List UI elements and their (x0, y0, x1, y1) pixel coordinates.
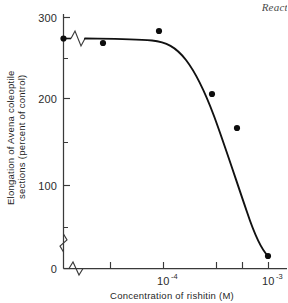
y-axis-title-line2: sections (percent of control) (16, 75, 27, 199)
data-series-group (60, 28, 271, 259)
fitted-dose-response-curve (85, 39, 268, 257)
data-point-control (60, 35, 66, 41)
curve-break-mark (71, 31, 85, 46)
x-tick-label-1e-3-exponent: -3 (276, 272, 283, 281)
x-axis-group: 10 -4 10 -3 Concentration of rishitin (M… (64, 262, 288, 301)
data-point-4 (209, 91, 215, 97)
x-tick-label-1e-4-group: 10 -4 (157, 272, 178, 287)
y-tick-label-300: 300 (38, 12, 57, 24)
x-tick-label-1e-4-mantissa: 10 (157, 275, 169, 287)
data-point-5 (234, 125, 240, 131)
data-point-3 (156, 28, 162, 34)
figure-panel: Reacti 300 200 100 0 Elongation of Avena… (0, 0, 287, 303)
y-axis-title-group: Elongation of Avena coleoptile sections … (5, 70, 27, 205)
data-point-2 (100, 40, 106, 46)
x-tick-label-1e-3-mantissa: 10 (262, 275, 274, 287)
y-axis-title-line1: Elongation of Avena coleoptile (5, 70, 16, 205)
y-tick-label-100: 100 (38, 180, 57, 192)
x-tick-label-1e-4-exponent: -4 (171, 272, 178, 281)
data-point-6 (265, 253, 271, 259)
x-tick-label-1e-3-group: 10 -3 (262, 272, 283, 287)
dose-response-chart: 300 200 100 0 Elongation of Avena coleop… (0, 0, 287, 303)
y-tick-label-0: 0 (51, 263, 57, 275)
y-tick-label-200: 200 (38, 93, 57, 105)
x-axis-title: Concentration of rishitin (M) (110, 290, 234, 301)
y-axis-group: 300 200 100 0 (38, 12, 70, 275)
